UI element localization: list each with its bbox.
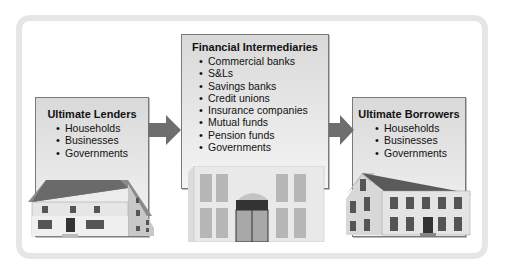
list-item: S&Ls [199, 67, 328, 79]
arrow-right-icon [148, 115, 182, 145]
list-item: Savings banks [199, 80, 328, 92]
borrowers-title: Ultimate Borrowers [353, 108, 465, 120]
list-item: Businesses [56, 134, 148, 146]
list-item: Businesses [375, 134, 465, 146]
list-item: Governments [56, 147, 148, 159]
lenders-title: Ultimate Lenders [36, 108, 148, 120]
bank-building-icon [186, 166, 326, 242]
list-item: Commercial banks [199, 55, 328, 67]
lenders-list: Households Businesses Governments [56, 122, 148, 159]
list-item: Mutual funds [199, 116, 328, 128]
list-item: Households [375, 122, 465, 134]
list-item: Insurance companies [199, 104, 328, 116]
list-item: Households [56, 122, 148, 134]
house-icon [344, 165, 476, 237]
list-item: Pension funds [199, 129, 328, 141]
arrow-right-icon [329, 115, 355, 145]
house-icon [26, 170, 158, 240]
borrowers-list: Households Businesses Governments [375, 122, 465, 159]
list-item: Governments [199, 141, 328, 153]
intermediaries-list: Commercial banks S&Ls Savings banks Cred… [199, 55, 328, 153]
list-item: Credit unions [199, 92, 328, 104]
list-item: Governments [375, 147, 465, 159]
intermediaries-title: Financial Intermediaries [182, 41, 328, 53]
